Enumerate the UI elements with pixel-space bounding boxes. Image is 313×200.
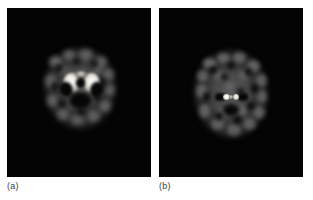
sulcus-gap xyxy=(209,66,217,74)
cortex-speckle xyxy=(99,100,111,112)
cortex-speckle xyxy=(79,49,93,60)
sulcus-gap xyxy=(51,82,58,90)
ventricle-region xyxy=(223,104,239,116)
scan-panel-a[interactable] xyxy=(7,8,151,177)
cortex-speckle xyxy=(47,94,58,107)
figure-container: (a) (b) xyxy=(0,0,313,200)
striatum-bridge xyxy=(75,71,87,78)
cortex-speckle xyxy=(257,90,267,103)
interhemispheric-gap xyxy=(76,78,85,88)
sulcus-gap xyxy=(221,74,228,80)
cortex-speckle xyxy=(105,84,115,96)
panel-label-b: (b) xyxy=(159,182,171,191)
cortex-speckle xyxy=(199,104,210,118)
cortex-speckle xyxy=(225,82,234,90)
residual-focus-right xyxy=(233,94,239,100)
cortex-speckle xyxy=(227,124,241,136)
scan-image-b xyxy=(159,8,303,177)
sulcus-gap xyxy=(215,112,223,120)
sulcus-gap xyxy=(245,68,252,76)
sulcus-gap xyxy=(233,116,242,124)
sulcus-gap xyxy=(59,100,66,107)
cortex-speckle xyxy=(87,110,100,122)
cortex-speckle xyxy=(243,118,256,130)
cortex-speckle xyxy=(233,52,246,63)
cortex-speckle xyxy=(57,108,69,120)
scan-panel-b[interactable] xyxy=(159,8,303,177)
cortex-speckle xyxy=(256,74,267,87)
sulcus-gap xyxy=(55,64,63,72)
cortex-speckle xyxy=(197,70,208,82)
sulcus-gap xyxy=(91,60,98,67)
sulcus-gap xyxy=(227,62,235,69)
sulcus-gap xyxy=(73,58,80,65)
cortex-speckle xyxy=(71,114,84,125)
sulcus-gap xyxy=(251,84,258,93)
sulcus-gap xyxy=(203,92,210,101)
scan-image-a xyxy=(7,8,151,177)
cortex-speckle xyxy=(253,106,265,119)
striatum-right-reduced xyxy=(238,93,248,101)
panel-label-a: (a) xyxy=(7,182,19,191)
sulcus-gap xyxy=(247,102,255,110)
sulcus-gap xyxy=(77,108,85,115)
